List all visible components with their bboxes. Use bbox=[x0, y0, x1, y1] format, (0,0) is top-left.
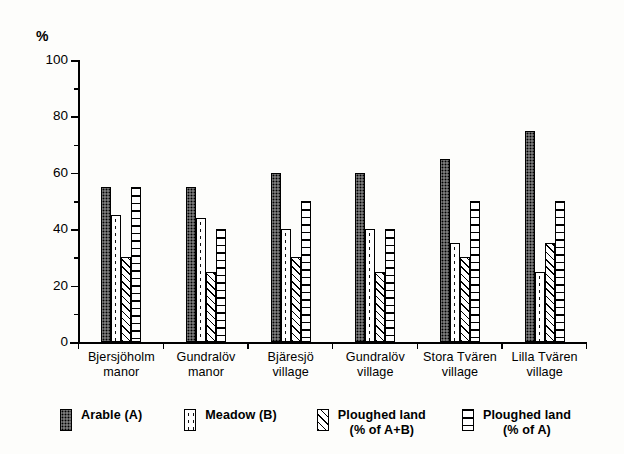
bar bbox=[555, 201, 565, 342]
y-tick-label: 40 bbox=[53, 222, 68, 236]
y-tick-major bbox=[71, 173, 78, 175]
chart-legend: Arable (A)Meadow (B)Ploughed land (% of … bbox=[60, 408, 580, 450]
legend-item: Ploughed land (% of A+B) bbox=[317, 408, 426, 438]
legend-label: Arable (A) bbox=[81, 408, 142, 423]
x-category-label: Gundralöv manor bbox=[176, 350, 235, 380]
legend-swatch-dark-stipple-icon bbox=[60, 409, 72, 431]
bar bbox=[355, 173, 365, 342]
y-tick-label: 20 bbox=[53, 279, 68, 293]
bar-chart: % 100806040200 Bjersjöholm manorGundralö… bbox=[0, 0, 624, 454]
bar bbox=[460, 257, 470, 342]
bar bbox=[196, 218, 206, 342]
bar bbox=[440, 159, 450, 342]
bar bbox=[385, 229, 395, 342]
bar bbox=[111, 215, 121, 342]
x-axis-line bbox=[70, 342, 586, 344]
y-tick-minor bbox=[74, 257, 78, 259]
x-category-label: Bjersjöholm manor bbox=[88, 350, 155, 380]
legend-label: Ploughed land (% of A+B) bbox=[338, 408, 426, 438]
x-category-label: Bjäresjö village bbox=[268, 350, 314, 380]
legend-item: Arable (A) bbox=[60, 408, 142, 431]
x-tick bbox=[163, 342, 164, 349]
y-tick-major bbox=[71, 286, 78, 288]
x-tick bbox=[332, 342, 333, 349]
bar bbox=[121, 257, 131, 342]
bar bbox=[271, 173, 281, 342]
x-category-label: Gundralöv village bbox=[346, 350, 405, 380]
bar bbox=[281, 229, 291, 342]
y-tick-major bbox=[71, 60, 78, 62]
bar bbox=[470, 201, 480, 342]
x-tick bbox=[78, 342, 79, 349]
legend-swatch-horizontal-lines-icon bbox=[462, 409, 474, 431]
legend-swatch-sparse-dots-icon bbox=[184, 409, 196, 431]
legend-swatch-diagonal-hatch-icon bbox=[317, 409, 329, 431]
y-axis-title: % bbox=[36, 28, 49, 44]
bar bbox=[450, 243, 460, 342]
y-tick-minor bbox=[74, 145, 78, 147]
bar bbox=[291, 257, 301, 342]
legend-item: Ploughed land (% of A) bbox=[462, 408, 571, 438]
x-tick bbox=[417, 342, 418, 349]
bar bbox=[206, 272, 216, 343]
x-tick bbox=[586, 342, 587, 349]
y-tick-label: 0 bbox=[60, 335, 68, 349]
bar bbox=[186, 187, 196, 342]
x-category-label: Stora Tvären village bbox=[423, 350, 497, 380]
bar bbox=[101, 187, 111, 342]
bar bbox=[365, 229, 375, 342]
bar bbox=[375, 272, 385, 343]
y-tick-major bbox=[71, 229, 78, 231]
y-tick-minor bbox=[74, 314, 78, 316]
legend-label: Ploughed land (% of A) bbox=[483, 408, 571, 438]
bar bbox=[216, 229, 226, 342]
x-tick bbox=[247, 342, 248, 349]
y-tick-label: 100 bbox=[45, 53, 68, 67]
y-tick-major bbox=[71, 116, 78, 118]
y-tick-minor bbox=[74, 88, 78, 90]
bar bbox=[545, 243, 555, 342]
plot-area: 100806040200 bbox=[78, 60, 586, 342]
bar bbox=[525, 131, 535, 343]
y-axis-line bbox=[78, 60, 80, 342]
y-tick-label: 60 bbox=[53, 166, 68, 180]
bar bbox=[131, 187, 141, 342]
bar bbox=[535, 272, 545, 343]
legend-label: Meadow (B) bbox=[205, 408, 277, 423]
y-tick-label: 80 bbox=[53, 110, 68, 124]
y-tick-major bbox=[71, 342, 78, 344]
bar bbox=[301, 201, 311, 342]
x-category-label: Lilla Tvären village bbox=[512, 350, 578, 380]
legend-item: Meadow (B) bbox=[184, 408, 277, 431]
y-tick-minor bbox=[74, 201, 78, 203]
x-tick bbox=[501, 342, 502, 349]
